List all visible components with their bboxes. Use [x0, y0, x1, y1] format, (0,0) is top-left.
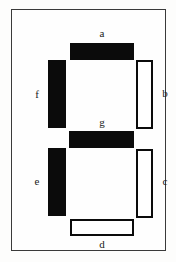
segment-c[interactable] — [136, 149, 153, 218]
seven-segment-diagram: a f b g e c d — [0, 0, 176, 262]
segment-f-label: f — [30, 89, 44, 100]
segment-g-label: g — [94, 117, 110, 128]
segment-d-label: d — [94, 239, 110, 250]
segment-b-label: b — [158, 88, 172, 99]
segment-e[interactable] — [48, 148, 66, 216]
segment-c-label: c — [158, 176, 172, 187]
segment-a-label: a — [94, 28, 110, 39]
diagram-frame: a f b g e c d — [11, 9, 166, 251]
segment-b[interactable] — [136, 60, 153, 129]
segment-f[interactable] — [48, 60, 66, 128]
segment-d[interactable] — [70, 219, 134, 236]
segment-e-label: e — [30, 176, 44, 187]
segment-a[interactable] — [70, 43, 134, 60]
segment-g[interactable] — [69, 131, 134, 148]
